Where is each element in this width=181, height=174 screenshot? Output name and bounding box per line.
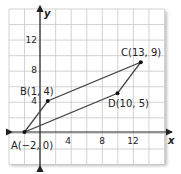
point-b-label: B(1, 4) [20,86,54,97]
x-tick-12: 12 [127,136,138,146]
point-d [116,91,120,95]
x-tick-8: 8 [99,136,105,146]
point-b [46,99,50,103]
x-tick-4: 4 [65,136,71,146]
point-a [23,130,27,134]
point-c [139,60,143,64]
y-tick-12: 12 [26,35,37,45]
coordinate-plane: x y 4 8 12 4 8 12 A(−2, 0) B(1, 4) C(13,… [0,0,181,174]
point-d-label: D(10, 5) [108,98,149,109]
y-tick-4: 4 [31,96,37,106]
point-c-label: C(13, 9) [121,47,161,58]
x-axis-label: x [167,135,175,146]
y-axis-label: y [44,8,51,19]
point-a-label: A(−2, 0) [11,140,53,151]
y-tick-8: 8 [31,65,37,75]
